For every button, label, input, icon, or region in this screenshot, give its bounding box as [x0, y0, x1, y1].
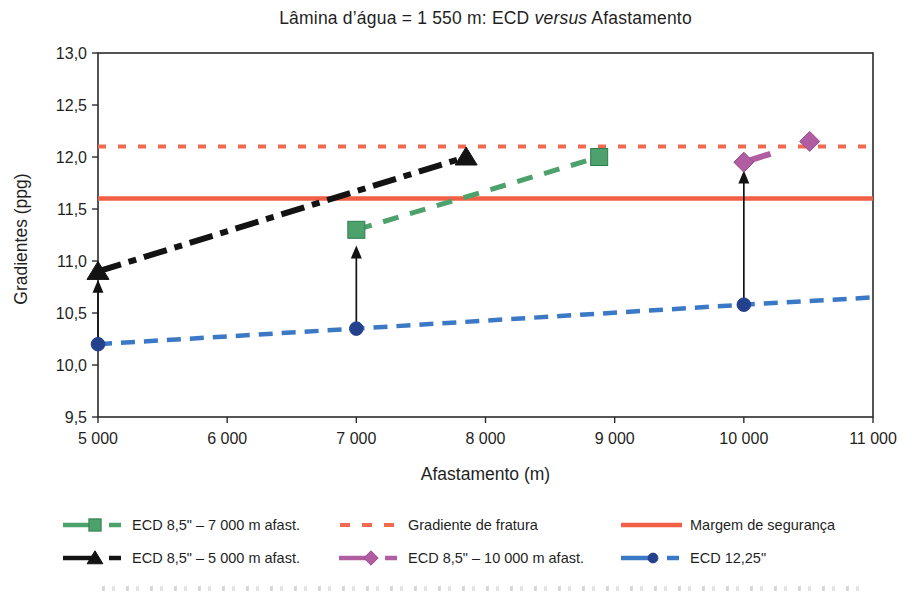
y-tick-label: 10,0: [56, 357, 87, 374]
series-line-0: [356, 157, 599, 230]
marker-square: [348, 221, 365, 238]
y-tick-label: 12,0: [56, 149, 87, 166]
marker-circle: [737, 298, 751, 312]
x-axis-title: Afastamento (m): [98, 464, 873, 485]
x-tick-label: 8 000: [465, 430, 505, 447]
plot-area: 9,510,010,511,011,512,012,513,05 0006 00…: [0, 0, 912, 592]
plot-frame: [98, 53, 873, 417]
y-tick-label: 10,5: [56, 305, 87, 322]
annotation-arrow-head: [351, 245, 362, 258]
y-tick-label: 9,5: [65, 409, 87, 426]
cropped-caption-fragment: [102, 586, 862, 591]
marker-square: [591, 149, 608, 166]
marker-triangle: [455, 147, 477, 165]
y-tick-label: 11,0: [57, 253, 87, 270]
x-tick-label: 5 000: [78, 430, 118, 447]
x-tick-label: 11 000: [849, 430, 897, 447]
marker-diamond: [734, 152, 754, 172]
x-tick-label: 9 000: [595, 430, 635, 447]
x-tick-label: 10 000: [719, 430, 768, 447]
y-axis-title: Gradientes (ppg): [11, 139, 33, 339]
y-tick-label: 12,5: [56, 97, 87, 114]
marker-circle: [91, 337, 105, 351]
series-line-5: [98, 297, 873, 344]
y-tick-label: 13,0: [56, 45, 87, 62]
x-tick-label: 6 000: [207, 430, 247, 447]
marker-circle: [350, 322, 364, 336]
y-tick-label: 11,5: [57, 201, 87, 218]
annotation-arrow-head: [93, 280, 104, 293]
chart-figure: Lâmina d’água = 1 550 m: ECD versus Afas…: [0, 0, 912, 592]
series-line-4: [744, 141, 810, 162]
x-tick-label: 7 000: [336, 430, 376, 447]
